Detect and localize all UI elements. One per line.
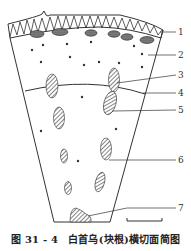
label-2: 2 <box>178 50 184 60</box>
label-3: 3 <box>178 70 184 80</box>
scattered-dots <box>31 41 143 162</box>
figure-title: 白首乌(块根)横切面简图 <box>68 231 180 246</box>
figure-caption: 图 31 - 4白首乌(块根)横切面简图 <box>0 231 191 246</box>
vascular-bundles <box>46 68 120 222</box>
label-5: 5 <box>178 105 184 115</box>
label-1: 1 <box>178 27 184 37</box>
label-6: 6 <box>178 155 184 165</box>
label-7: 7 <box>178 203 184 213</box>
label-4: 4 <box>178 88 184 98</box>
figure-number: 图 31 - 4 <box>11 231 58 246</box>
cambium-line <box>25 84 145 94</box>
root-cross-section-diagram: 1 2 3 4 5 6 7 <box>0 0 191 228</box>
part-labels: 1 2 3 4 5 6 7 <box>178 27 184 213</box>
root-outline <box>10 30 163 222</box>
scale-bar <box>127 218 162 221</box>
